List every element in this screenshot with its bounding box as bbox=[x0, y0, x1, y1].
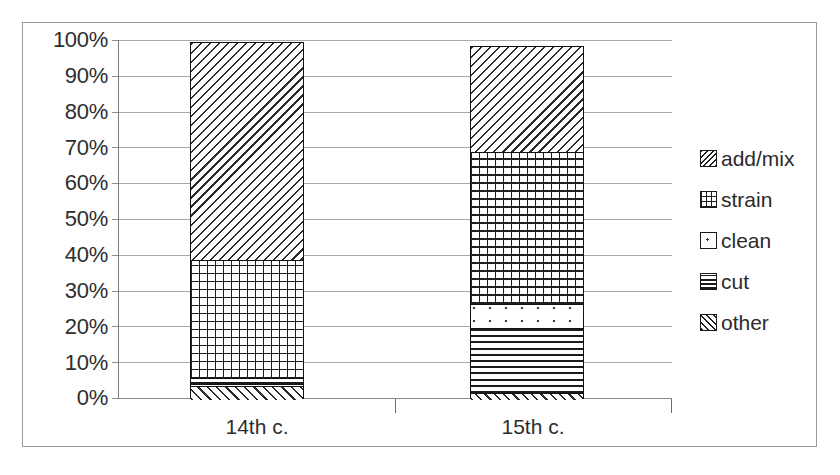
legend-label: cut bbox=[721, 271, 749, 292]
y-tick-label: 0% bbox=[16, 387, 108, 409]
gridline bbox=[118, 40, 672, 41]
category-divider bbox=[395, 399, 396, 413]
legend-item-other[interactable]: other bbox=[700, 302, 828, 343]
y-axis-line bbox=[118, 40, 119, 399]
y-tick-label: 30% bbox=[16, 280, 108, 302]
category-divider bbox=[671, 399, 672, 413]
y-tick-label: 40% bbox=[16, 244, 108, 266]
bar-segment-strain[interactable] bbox=[191, 260, 303, 378]
bar-segment-add-mix[interactable] bbox=[191, 43, 303, 260]
y-tick-label: 10% bbox=[16, 352, 108, 374]
legend: add/mix strain clean cut other bbox=[700, 138, 828, 343]
bar-segment-clean[interactable] bbox=[471, 304, 583, 328]
bar-segment-add-mix[interactable] bbox=[471, 47, 583, 152]
x-tick-label-15th-c: 15th c. bbox=[413, 415, 653, 439]
bar-segment-cut[interactable] bbox=[471, 328, 583, 393]
legend-swatch-add-mix-icon bbox=[700, 150, 717, 167]
bar-15th-c[interactable] bbox=[470, 46, 584, 399]
bar-segment-other[interactable] bbox=[471, 393, 583, 400]
x-tick-label-14th-c: 14th c. bbox=[137, 415, 377, 439]
legend-label: clean bbox=[721, 230, 771, 251]
y-tick-label: 60% bbox=[16, 172, 108, 194]
legend-item-add-mix[interactable]: add/mix bbox=[700, 138, 828, 179]
legend-swatch-other-icon bbox=[700, 314, 717, 331]
bar-14th-c[interactable] bbox=[190, 42, 304, 399]
chart-root: 100% 90% 80% 70% 60% 50% 40% 30% 20% 10%… bbox=[0, 0, 840, 475]
y-tick-label: 100% bbox=[16, 29, 108, 51]
y-tick-label: 20% bbox=[16, 316, 108, 338]
legend-item-cut[interactable]: cut bbox=[700, 261, 828, 302]
y-tick-label: 80% bbox=[16, 101, 108, 123]
legend-swatch-cut-icon bbox=[700, 273, 717, 290]
bar-segment-other[interactable] bbox=[191, 386, 303, 400]
legend-swatch-clean-icon bbox=[700, 232, 717, 249]
legend-swatch-strain-icon bbox=[700, 191, 717, 208]
y-tick-label: 90% bbox=[16, 65, 108, 87]
legend-label: add/mix bbox=[721, 148, 795, 169]
bar-segment-strain[interactable] bbox=[471, 152, 583, 304]
legend-item-clean[interactable]: clean bbox=[700, 220, 828, 261]
y-tick-label: 70% bbox=[16, 137, 108, 159]
legend-item-strain[interactable]: strain bbox=[700, 179, 828, 220]
legend-label: other bbox=[721, 312, 769, 333]
y-tick-label: 50% bbox=[16, 208, 108, 230]
legend-label: strain bbox=[721, 189, 772, 210]
